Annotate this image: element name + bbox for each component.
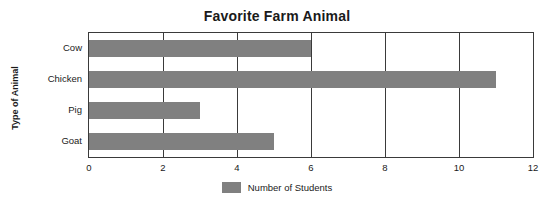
bar-row: [89, 126, 533, 157]
legend-label-number-of-students: Number of Students: [248, 182, 333, 193]
bar-goat: [89, 133, 274, 150]
y-tick-label-goat: Goat: [0, 135, 88, 146]
bar-row: [89, 64, 533, 95]
x-tick-label-12: 12: [528, 162, 539, 173]
chart-title: Favorite Farm Animal: [0, 8, 554, 24]
x-tick-label-0: 0: [86, 162, 91, 173]
chart-legend: Number of Students: [0, 182, 554, 193]
bar-pig: [89, 102, 200, 119]
bar-cow: [89, 40, 311, 57]
bar-row: [89, 95, 533, 126]
y-tick-label-cow: Cow: [0, 42, 88, 53]
y-tick-label-chicken: Chicken: [0, 73, 88, 84]
bar-chicken: [89, 71, 496, 88]
x-tick-label-6: 6: [308, 162, 313, 173]
x-tick-label-4: 4: [234, 162, 239, 173]
bar-row: [89, 33, 533, 64]
plot-area: [88, 32, 534, 158]
bar-chart: Favorite Farm Animal Type of Animal Numb…: [0, 0, 554, 217]
y-tick-label-pig: Pig: [0, 104, 88, 115]
x-tick-label-10: 10: [454, 162, 465, 173]
legend-swatch-number-of-students: [222, 182, 241, 193]
x-tick-label-2: 2: [160, 162, 165, 173]
x-tick-label-8: 8: [382, 162, 387, 173]
